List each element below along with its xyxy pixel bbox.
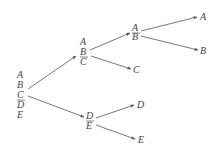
edge-de-d <box>96 105 134 118</box>
leaf-a: A <box>199 11 207 22</box>
edge-de-e <box>96 125 135 139</box>
leaf-d: D <box>136 99 145 110</box>
edge-ab-a <box>141 17 197 31</box>
abc-node: A B C <box>79 36 88 67</box>
root-letter-e: E <box>16 109 23 120</box>
edge-root-abc <box>28 56 76 89</box>
edge-root-de <box>28 96 84 117</box>
ab-node: A B <box>131 22 140 42</box>
de-node: D E <box>85 110 94 131</box>
edge-ab-b <box>141 36 198 50</box>
de-letter-e: E <box>85 120 92 131</box>
abc-letter-c: C <box>80 56 87 67</box>
split-tree-diagram: A B C D E A B C C A B A B D E D E <box>0 0 215 154</box>
root-node: A B C D E <box>16 69 25 120</box>
edge-abc-c <box>91 56 131 69</box>
ab-letter-b: B <box>132 31 138 42</box>
leaf-c: C <box>133 64 140 75</box>
leaf-b: B <box>200 45 206 56</box>
edge-abc-ab <box>90 33 130 50</box>
leaf-e: E <box>137 134 144 145</box>
